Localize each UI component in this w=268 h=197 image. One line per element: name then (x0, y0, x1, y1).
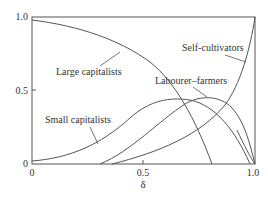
leader-large-capitalists (100, 52, 120, 66)
y-tick-label-1: 1.0 (16, 11, 29, 22)
leader-self-cultivators (225, 55, 246, 62)
series-curves (32, 17, 255, 164)
label-small-capitalists: Small capitalists (45, 114, 111, 125)
x-tick-label-1: 1.0 (247, 167, 260, 178)
x-axis-labels: 0 0.5 1.0 δ (30, 167, 260, 190)
x-tick-label-0.5: 0.5 (137, 167, 150, 178)
label-labourer-farmers: Labourer–farmers (155, 75, 227, 86)
chart: 1.0 0.5 0 0 0.5 1.0 δ Large capitalists … (0, 0, 268, 197)
curve-self-cultivators (112, 17, 255, 164)
curve-tail (237, 130, 255, 164)
y-tick-label-0.5: 0.5 (16, 85, 29, 96)
y-axis-labels: 1.0 0.5 0 (16, 11, 29, 169)
plot-border (32, 17, 255, 164)
x-tick-label-0: 0 (30, 167, 35, 178)
label-large-capitalists: Large capitalists (56, 66, 122, 77)
curve-small-capitalists (32, 99, 250, 164)
x-axis-title: δ (140, 178, 145, 190)
plot-frame (32, 17, 255, 164)
y-tick-label-0: 0 (23, 158, 28, 169)
label-self-cultivators: Self-cultivators (182, 42, 244, 53)
leader-small-capitalists (90, 127, 98, 144)
series-labels: Large capitalists Self-cultivators Labou… (45, 42, 246, 144)
leader-labourer-farmers (193, 87, 207, 97)
